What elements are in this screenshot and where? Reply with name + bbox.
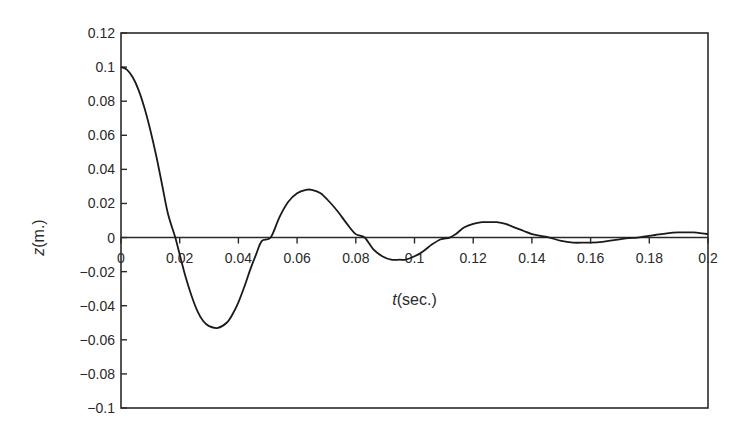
x-tick-label: 0.08 bbox=[342, 250, 369, 266]
x-tick-label: 0 bbox=[117, 250, 125, 266]
x-tick-label: 0.2 bbox=[698, 250, 718, 266]
y-tick-label: 0.04 bbox=[88, 161, 115, 177]
y-tick-label: 0.06 bbox=[88, 127, 115, 143]
data-line-z-of-t bbox=[121, 67, 708, 328]
y-axis-title-unit: (m.) bbox=[30, 219, 47, 247]
plot-border bbox=[121, 33, 708, 408]
x-tick-label: 0.18 bbox=[636, 250, 663, 266]
y-tick-label: −0.1 bbox=[87, 400, 115, 416]
x-axis-title-unit: (sec.) bbox=[397, 291, 437, 308]
y-tick-label: 0.08 bbox=[88, 93, 115, 109]
y-tick-label: 0.12 bbox=[88, 25, 115, 41]
x-tick-label: 0.14 bbox=[518, 250, 545, 266]
y-tick-label: −0.02 bbox=[80, 264, 116, 280]
y-tick-label: −0.06 bbox=[80, 332, 116, 348]
y-tick-label: 0.1 bbox=[96, 59, 116, 75]
y-axis-title-symbol: z bbox=[30, 248, 47, 257]
x-axis-title: t(sec.) bbox=[392, 291, 436, 308]
x-tick-label: 0.04 bbox=[225, 250, 252, 266]
y-tick-label: −0.04 bbox=[80, 298, 116, 314]
x-axis: 00.020.040.060.080.10.120.140.160.180.2 bbox=[117, 238, 718, 266]
y-tick-label: 0.02 bbox=[88, 195, 115, 211]
y-axis: 0.120.10.080.060.040.020−0.02−0.04−0.06−… bbox=[80, 25, 127, 416]
x-tick-label: 0.06 bbox=[283, 250, 310, 266]
chart: 0.120.10.080.060.040.020−0.02−0.04−0.06−… bbox=[0, 0, 753, 433]
x-tick-label: 0.16 bbox=[577, 250, 604, 266]
x-tick-label: 0.12 bbox=[460, 250, 487, 266]
y-tick-label: −0.08 bbox=[80, 366, 116, 382]
y-axis-title: z(m.) bbox=[30, 219, 47, 256]
plot-frame bbox=[121, 33, 708, 408]
y-tick-label: 0 bbox=[107, 230, 115, 246]
